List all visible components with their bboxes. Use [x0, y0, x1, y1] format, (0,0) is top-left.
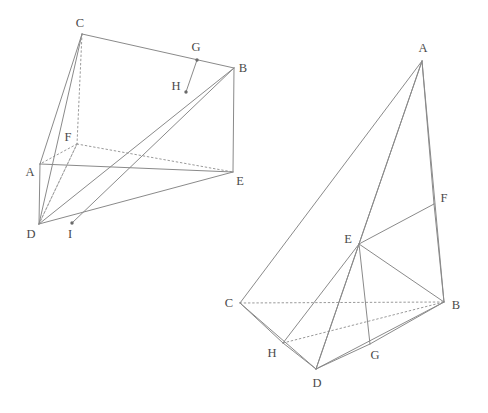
vertex-label-right-C: C [225, 297, 233, 310]
hidden-edge-CB [240, 302, 444, 303]
edge-AF [422, 61, 434, 204]
hidden-edge-HB [283, 302, 444, 343]
edge-GE [359, 244, 370, 344]
vertex-label-left-B: B [239, 62, 247, 75]
vertex-label-left-C: C [76, 17, 84, 30]
edge-AE [359, 61, 422, 244]
vertex-label-left-E: E [236, 175, 244, 188]
vertex-label-right-A: A [418, 42, 427, 55]
edge-CB [82, 34, 234, 68]
vertex-label-right-E: E [344, 233, 352, 246]
hidden-edge-DF [39, 144, 77, 224]
vertex-label-left-G: G [191, 41, 200, 54]
hidden-edge-FE [77, 144, 233, 172]
vertex-label-left-H: H [171, 80, 180, 93]
edge-AD [39, 164, 40, 224]
edge-HE [283, 244, 359, 343]
edge-CD [39, 34, 82, 224]
edge-AC [240, 61, 422, 303]
hidden-edge-CF [77, 34, 82, 144]
edge-EB [359, 244, 444, 302]
vertex-label-left-I: I [68, 228, 72, 241]
edge-BE [233, 68, 234, 172]
vertex-label-right-G: G [370, 349, 379, 362]
vertex-label-left-D: D [26, 228, 35, 241]
vertex-dot-G [195, 58, 198, 61]
edge-DE [39, 172, 233, 224]
edge-GB [370, 302, 444, 344]
vertex-dot-I [70, 221, 73, 224]
edge-AE [40, 164, 233, 172]
edge-FB [434, 204, 444, 302]
vertex-label-left-F: F [65, 131, 72, 144]
edge-BI [72, 68, 234, 223]
right-solid [240, 61, 444, 369]
vertex-label-right-B: B [452, 299, 460, 312]
vertex-label-left-A: A [25, 166, 34, 179]
edge-BD [39, 68, 234, 224]
vertex-label-right-D: D [312, 377, 321, 390]
vertex-label-right-H: H [267, 347, 276, 360]
vertex-dot-H [184, 90, 187, 93]
edge-HD [283, 343, 316, 369]
edge-CD [240, 303, 316, 369]
diagram-canvas: ABCDEFGHIABCDEFGH [0, 0, 488, 413]
vertex-label-right-F: F [441, 192, 448, 205]
edge-GH [186, 60, 197, 92]
